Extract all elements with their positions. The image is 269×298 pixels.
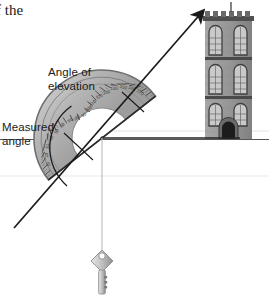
tower-window bbox=[209, 65, 222, 94]
tower-window bbox=[209, 26, 222, 55]
protractor: 10 20 30 40 50 60 70 80 90 100 110 120 1… bbox=[7, 43, 157, 182]
clinometer-diagram: f the bbox=[0, 0, 269, 298]
tower-battlements bbox=[203, 11, 254, 21]
key-weight bbox=[91, 250, 113, 294]
tower bbox=[203, 2, 254, 139]
label-angle-of-elevation: Angle of elevation bbox=[48, 66, 95, 93]
svg-text:140: 140 bbox=[111, 86, 119, 91]
tower-window bbox=[234, 65, 247, 94]
label-measured-angle: Measured angle bbox=[2, 121, 54, 148]
tower-window bbox=[234, 26, 247, 55]
tower-door bbox=[219, 118, 238, 139]
diagram-canvas: 10 20 30 40 50 60 70 80 90 100 110 120 1… bbox=[0, 0, 269, 298]
